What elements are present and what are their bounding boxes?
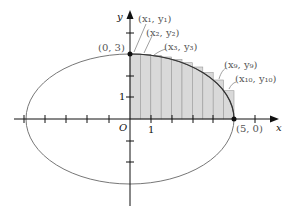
annotation-x9-y9: (x₉, y₉) — [224, 59, 258, 70]
rect-6 — [182, 63, 192, 119]
rect-3 — [151, 55, 161, 119]
rect-2 — [140, 54, 150, 119]
y-axis-label: y — [116, 11, 123, 22]
x-tick-label-1: 1 — [148, 124, 154, 135]
point-0-3 — [128, 52, 133, 57]
point-5-0 — [232, 117, 237, 122]
rect-7 — [192, 67, 202, 119]
annotation-x3-y3: (x₃, y₃) — [164, 41, 198, 52]
annotation-x10-y10: (x₁₀, y₁₀) — [235, 73, 277, 84]
rect-4 — [161, 57, 171, 119]
y-tick-label-1: 1 — [119, 91, 125, 102]
point-label-5-0: (5, 0) — [236, 123, 263, 134]
rect-5 — [172, 59, 182, 119]
rect-8 — [203, 73, 213, 119]
x-axis-label: x — [276, 122, 282, 133]
point-label-0-3: (0, 3) — [98, 42, 125, 53]
annotation-x2-y2: (x₂, y₂) — [146, 27, 180, 38]
annotation-x1-y1: (x₁, y₁) — [138, 13, 172, 24]
rect-1 — [130, 54, 140, 119]
y-axis-arrow-icon — [127, 10, 134, 19]
riemann-rectangles — [130, 54, 234, 119]
rect-9 — [213, 80, 223, 119]
rect-10 — [224, 91, 234, 119]
origin-label: O — [119, 122, 127, 133]
ellipse-diagram: y x O 1 1 (0, 3) (5, 0) (x₁, y₁) (x₂, y₂… — [0, 0, 298, 213]
